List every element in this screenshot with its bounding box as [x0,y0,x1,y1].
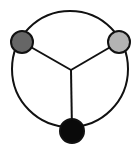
node-left [11,31,33,53]
diagram-canvas [0,0,140,156]
edges-group [22,42,119,131]
three-node-ring-diagram [0,0,140,156]
node-right [108,31,130,53]
node-bottom [60,119,84,143]
